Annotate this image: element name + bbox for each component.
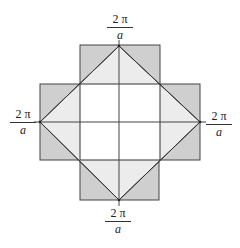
label-left: 2 π a (8, 108, 38, 137)
label-left-numerator: 2 π (8, 108, 38, 121)
label-right: 2 π a (204, 110, 234, 139)
label-right-numerator: 2 π (204, 110, 234, 123)
label-bottom-numerator: 2 π (103, 207, 133, 220)
label-right-denominator: a (204, 126, 234, 139)
label-top-denominator: a (105, 29, 135, 42)
label-left-denominator: a (8, 124, 38, 137)
label-bottom-denominator: a (103, 223, 133, 236)
label-bottom: 2 π a (103, 207, 133, 236)
label-top-numerator: 2 π (105, 13, 135, 26)
label-top: 2 π a (105, 13, 135, 42)
